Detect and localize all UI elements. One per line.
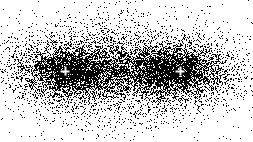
plus-icon-vertical-bar	[64, 67, 66, 76]
focus-marker-right[interactable]	[176, 67, 185, 76]
plus-icon-vertical-bar	[179, 67, 181, 76]
stipple-density-canvas	[0, 0, 253, 142]
focus-marker-left[interactable]	[61, 67, 70, 76]
density-figure	[0, 0, 253, 142]
